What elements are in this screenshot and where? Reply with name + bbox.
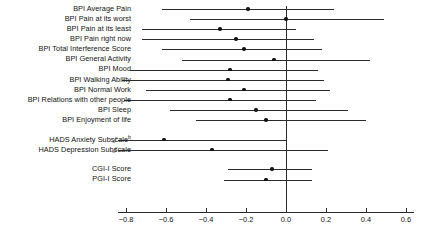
point-estimate-marker — [264, 118, 268, 122]
point-estimate-marker — [272, 58, 276, 62]
confidence-interval-row — [118, 57, 414, 64]
x-axis-tick-label: −0.4 — [199, 215, 214, 224]
confidence-interval-line — [118, 140, 286, 141]
point-estimate-marker — [228, 98, 232, 102]
confidence-interval-row — [118, 87, 414, 94]
confidence-interval-line — [124, 100, 316, 101]
confidence-interval-row — [118, 97, 414, 104]
point-estimate-marker — [270, 167, 274, 171]
point-estimate-marker — [242, 47, 246, 51]
x-axis-tick-label: −0.8 — [119, 215, 134, 224]
point-estimate-marker — [162, 138, 166, 142]
x-axis-tick — [246, 208, 247, 212]
x-axis-tick-label: 0.4 — [361, 215, 371, 224]
x-axis-tick — [206, 208, 207, 212]
confidence-interval-line — [146, 90, 330, 91]
confidence-interval-row — [118, 6, 414, 13]
x-axis-tick — [286, 208, 287, 212]
x-axis-tick-label: −0.6 — [159, 215, 174, 224]
confidence-interval-line — [170, 110, 348, 111]
point-estimate-marker — [228, 68, 232, 72]
x-axis-tick — [366, 208, 367, 212]
confidence-interval-line — [224, 180, 312, 181]
confidence-interval-row — [118, 117, 414, 124]
x-axis-tick — [166, 208, 167, 212]
axis-break-icon: // — [113, 136, 120, 145]
row-label: BPI Relations with other people — [28, 96, 131, 104]
point-estimate-marker — [210, 148, 214, 152]
point-estimate-marker — [242, 88, 246, 92]
confidence-interval-row — [118, 107, 414, 114]
confidence-interval-row — [118, 26, 414, 33]
confidence-interval-row — [118, 177, 414, 184]
confidence-interval-line — [182, 60, 370, 61]
x-axis-tick — [126, 208, 127, 212]
axis-break-icon: // — [113, 146, 120, 155]
point-estimate-marker — [218, 27, 222, 31]
x-axis-tick — [406, 208, 407, 212]
confidence-interval-line — [130, 70, 318, 71]
point-estimate-marker — [246, 7, 250, 11]
point-estimate-marker — [264, 178, 268, 182]
point-estimate-marker — [284, 17, 288, 21]
x-axis-tick — [326, 208, 327, 212]
point-estimate-marker — [234, 37, 238, 41]
confidence-interval-row — [118, 36, 414, 43]
confidence-interval-row: // — [118, 147, 414, 154]
confidence-interval-row — [118, 166, 414, 173]
x-axis-line — [118, 212, 414, 213]
confidence-interval-row — [118, 67, 414, 74]
x-axis-tick-label: 0.6 — [401, 215, 411, 224]
confidence-interval-line — [196, 120, 366, 121]
point-estimate-marker — [254, 108, 258, 112]
x-axis-tick-label: −0.2 — [239, 215, 254, 224]
confidence-interval-row — [118, 16, 414, 23]
confidence-interval-line — [118, 150, 328, 151]
point-estimate-marker — [226, 78, 230, 82]
plot-area: //// — [118, 6, 414, 209]
confidence-interval-row: // — [118, 137, 414, 144]
forest-plot: BPI Average PainBPI Pain at its worstBPI… — [0, 0, 427, 239]
confidence-interval-row — [118, 77, 414, 84]
x-axis-tick-label: 0.2 — [321, 215, 331, 224]
confidence-interval-line — [122, 80, 324, 81]
x-axis: −0.8−0.6−0.4−0.20.00.20.40.6 — [118, 212, 414, 236]
x-axis-tick-label: 0.0 — [281, 215, 291, 224]
confidence-interval-line — [142, 39, 314, 40]
confidence-interval-row — [118, 46, 414, 53]
